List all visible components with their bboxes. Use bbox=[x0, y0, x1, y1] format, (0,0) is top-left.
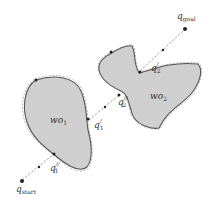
point-goal-segment-mid bbox=[162, 49, 164, 51]
point-start-segment-mid bbox=[38, 166, 40, 168]
label-q1-prime: q/1 bbox=[94, 118, 103, 131]
label-q-goal: qgoal bbox=[177, 11, 196, 23]
point-q2-prime bbox=[139, 71, 142, 74]
label-q-start: qstart bbox=[16, 184, 37, 195]
point-middle-segment-mid bbox=[104, 106, 106, 108]
point-q-start bbox=[20, 179, 24, 183]
label-q1-dprime: q//1 bbox=[50, 161, 61, 174]
point-wo1-top bbox=[35, 79, 38, 82]
obstacle-wo2 bbox=[99, 46, 201, 128]
point-q1-prime bbox=[87, 118, 90, 121]
point-q1-dprime bbox=[53, 153, 56, 156]
point-wo2-top bbox=[110, 51, 113, 54]
label-q2-prime: q/2 bbox=[151, 61, 161, 74]
label-q2-dprime: q//2 bbox=[118, 95, 129, 108]
motion-planning-diagram: qstart qgoal q//1 q/1 q//2 q/2 wo1 wo2 bbox=[0, 0, 215, 207]
point-q-goal bbox=[183, 27, 187, 31]
